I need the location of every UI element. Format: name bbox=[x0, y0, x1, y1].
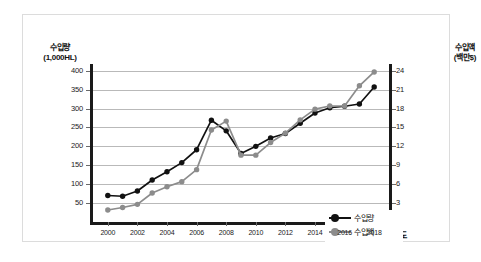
plot-area: 수입량 수입액 bbox=[93, 65, 389, 222]
y-axis-right-tick-label: 6 bbox=[396, 180, 418, 188]
series-import-volume bbox=[105, 84, 377, 199]
data-point-marker bbox=[179, 160, 184, 165]
y-axis-left-tick-label: 250 bbox=[53, 123, 83, 131]
y-axis-right-tick-label: 12 bbox=[396, 142, 418, 150]
data-point-marker bbox=[150, 190, 155, 195]
data-series-layer bbox=[93, 65, 389, 222]
chart-legend: 수입량 수입액 bbox=[325, 210, 403, 242]
data-point-marker bbox=[194, 147, 199, 152]
data-point-marker bbox=[224, 118, 229, 123]
x-axis-tick bbox=[315, 222, 316, 226]
x-axis-tick bbox=[285, 222, 286, 226]
data-point-marker bbox=[357, 101, 362, 106]
x-axis-tick bbox=[256, 222, 257, 226]
data-point-marker bbox=[135, 188, 140, 193]
y-axis-right-tick-label: 24 bbox=[396, 67, 418, 75]
data-point-marker bbox=[135, 202, 140, 207]
data-point-marker bbox=[268, 140, 273, 145]
y-axis-left-tick bbox=[86, 109, 90, 110]
axis-line-right bbox=[389, 64, 392, 223]
data-point-marker bbox=[164, 184, 169, 189]
y-axis-right-tick-label: 21 bbox=[396, 86, 418, 94]
data-point-marker bbox=[179, 179, 184, 184]
y-axis-left-tick bbox=[86, 203, 90, 204]
y-axis-left-title-unit: (1,000HL) bbox=[43, 53, 76, 62]
x-axis-tick bbox=[108, 222, 109, 226]
y-axis-left-tick bbox=[86, 165, 90, 166]
y-axis-left-tick-label: 50 bbox=[53, 199, 83, 207]
data-point-marker bbox=[120, 205, 125, 210]
data-point-marker bbox=[312, 106, 317, 111]
y-axis-left-tick bbox=[86, 146, 90, 147]
data-point-marker bbox=[120, 194, 125, 199]
data-point-marker bbox=[372, 84, 377, 89]
data-point-marker bbox=[209, 127, 214, 132]
data-point-marker bbox=[238, 152, 243, 157]
y-axis-right-tick-label: 18 bbox=[396, 105, 418, 113]
y-axis-left-tick-label: 100 bbox=[53, 180, 83, 188]
series-line bbox=[108, 72, 374, 210]
data-point-marker bbox=[105, 193, 110, 198]
x-axis-tick bbox=[197, 222, 198, 226]
data-point-marker bbox=[342, 103, 347, 108]
legend-item-import-volume: 수입량 bbox=[329, 211, 374, 224]
y-axis-left-tick-label: 400 bbox=[53, 67, 83, 75]
data-point-marker bbox=[298, 117, 303, 122]
legend-marker-icon bbox=[329, 213, 351, 222]
y-axis-left-tick-label: 350 bbox=[53, 86, 83, 94]
data-point-marker bbox=[209, 118, 214, 123]
y-axis-right-tick-label: 3 bbox=[396, 199, 418, 207]
y-axis-right-title-name: 수입액 bbox=[455, 43, 475, 52]
data-point-marker bbox=[283, 130, 288, 135]
data-point-marker bbox=[105, 207, 110, 212]
data-point-marker bbox=[164, 169, 169, 174]
x-axis-tick-label: 2018 bbox=[354, 229, 394, 236]
y-axis-right-tick-label: 9 bbox=[396, 161, 418, 169]
y-axis-right-title: 수입액 (백만$) bbox=[437, 43, 481, 63]
y-axis-left-title: 수입량 (1,000HL) bbox=[31, 43, 89, 63]
y-axis-left-tick bbox=[86, 71, 90, 72]
data-point-marker bbox=[357, 83, 362, 88]
data-point-marker bbox=[194, 167, 199, 172]
series-line bbox=[108, 87, 374, 196]
data-point-marker bbox=[253, 144, 258, 149]
chart-figure: 수입량 (1,000HL) 수입액 (백만$) 연도 수입량 bbox=[22, 14, 450, 242]
data-point-marker bbox=[150, 177, 155, 182]
y-axis-left-title-name: 수입량 bbox=[50, 43, 70, 52]
data-point-marker bbox=[224, 128, 229, 133]
series-import-value bbox=[105, 69, 377, 212]
y-axis-right-title-unit: (백만$) bbox=[454, 53, 476, 62]
legend-item-label: 수입량 bbox=[354, 212, 374, 223]
data-point-marker bbox=[253, 152, 258, 157]
y-axis-left-tick-label: 300 bbox=[53, 105, 83, 113]
y-axis-left-tick bbox=[86, 90, 90, 91]
x-axis-tick bbox=[137, 222, 138, 226]
y-axis-left-tick-label: 150 bbox=[53, 161, 83, 169]
data-point-marker bbox=[327, 103, 332, 108]
x-axis-tick bbox=[226, 222, 227, 226]
y-axis-left-tick bbox=[86, 184, 90, 185]
data-point-marker bbox=[372, 69, 377, 74]
y-axis-left-tick-label: 200 bbox=[53, 142, 83, 150]
x-axis-tick bbox=[167, 222, 168, 226]
y-axis-right-tick-label: 15 bbox=[396, 123, 418, 131]
y-axis-left-tick bbox=[86, 127, 90, 128]
